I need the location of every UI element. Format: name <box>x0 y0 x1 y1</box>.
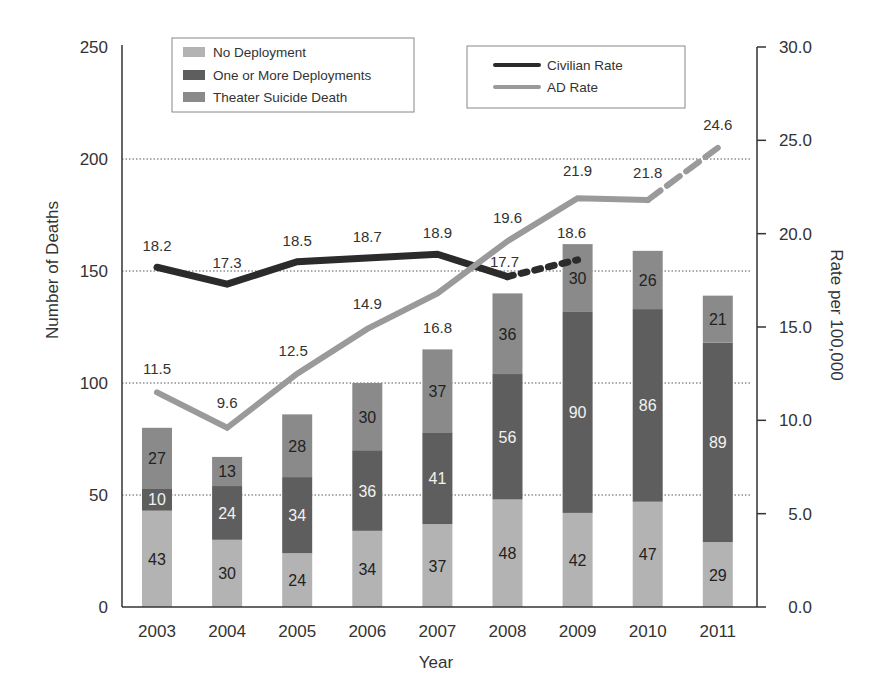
legend-lines: Civilian Rate AD Rate <box>467 46 685 108</box>
rate-label: 21.9 <box>563 162 592 179</box>
legend-swatch-theater <box>183 92 205 102</box>
x-tick-label: 2011 <box>700 622 737 641</box>
rate-label: 19.6 <box>493 209 522 226</box>
bar-value-label: 56 <box>499 429 517 446</box>
bar-value-label: 86 <box>639 397 657 414</box>
x-tick-label: 2004 <box>208 622 246 641</box>
rate-label: 18.7 <box>353 228 382 245</box>
y2-tick-label: 25.0 <box>779 131 812 150</box>
rate-label: 18.2 <box>142 237 171 254</box>
chart: 4310273024132434283436303741374856364290… <box>0 0 894 699</box>
bar-value-label: 47 <box>639 546 657 563</box>
legend-label: One or More Deployments <box>213 68 372 83</box>
rate-label: 16.8 <box>423 319 452 336</box>
y-tick-label: 50 <box>89 486 108 505</box>
rate-label: 9.6 <box>217 394 238 411</box>
bar-value-label: 30 <box>569 270 587 287</box>
rate-label: 18.9 <box>423 224 452 241</box>
bar-value-label: 24 <box>218 505 236 522</box>
legend-bars: No Deployment One or More Deployments Th… <box>172 38 414 112</box>
bar-value-label: 21 <box>709 311 727 328</box>
bar-value-label: 89 <box>709 434 727 451</box>
x-tick-label: 2003 <box>138 622 176 641</box>
x-axis-label: Year <box>419 653 454 672</box>
rate-label: 11.5 <box>143 360 171 377</box>
bar-value-label: 43 <box>148 551 166 568</box>
y2-tick-label: 5.0 <box>788 505 812 524</box>
bar-value-label: 41 <box>429 470 447 487</box>
rate-label: 12.5 <box>279 342 308 359</box>
rate-label: 17.3 <box>212 254 241 271</box>
y2-tick-label: 0.0 <box>788 598 812 617</box>
y2-tick-label: 30.0 <box>779 38 812 57</box>
bar-value-label: 28 <box>288 438 306 455</box>
rate-label: 17.7 <box>490 253 519 270</box>
bar-value-label: 37 <box>429 383 447 400</box>
bar-value-label: 24 <box>288 572 306 589</box>
legend-swatch-deployments <box>183 70 205 80</box>
bar-value-label: 36 <box>358 483 376 500</box>
legend-box <box>467 46 685 108</box>
bar-value-label: 48 <box>499 545 517 562</box>
bar-value-label: 10 <box>148 491 166 508</box>
bar-value-label: 26 <box>639 272 657 289</box>
bar-value-label: 42 <box>569 552 587 569</box>
y-tick-label: 100 <box>80 374 108 393</box>
x-tick-label: 2006 <box>348 622 386 641</box>
y2-tick-label: 10.0 <box>779 411 812 430</box>
bar-value-label: 90 <box>569 404 587 421</box>
legend-swatch-no-deployment <box>183 47 205 57</box>
legend-label: Theater Suicide Death <box>213 90 347 105</box>
rate-label: 21.8 <box>633 164 662 181</box>
y-tick-label: 250 <box>80 38 108 57</box>
x-tick-label: 2009 <box>559 622 597 641</box>
x-tick-label: 2008 <box>489 622 527 641</box>
bar-value-label: 37 <box>429 558 447 575</box>
legend-label: AD Rate <box>547 80 598 95</box>
x-tick-label: 2007 <box>418 622 456 641</box>
y2-tick-label: 20.0 <box>779 225 812 244</box>
bar-value-label: 34 <box>288 507 306 524</box>
y-tick-label: 150 <box>80 262 108 281</box>
legend-label: Civilian Rate <box>547 58 623 73</box>
x-tick-label: 2010 <box>629 622 667 641</box>
rate-label: 18.5 <box>283 232 312 249</box>
y2-tick-label: 15.0 <box>779 318 812 337</box>
rate-label: 24.6 <box>703 116 732 133</box>
rate-label: 18.6 <box>557 224 586 241</box>
bar-value-label: 27 <box>148 450 166 467</box>
x-tick-label: 2005 <box>278 622 316 641</box>
bar-value-label: 34 <box>358 561 376 578</box>
y-tick-label: 200 <box>80 150 108 169</box>
rate-label: 14.9 <box>353 295 382 312</box>
bar-value-label: 30 <box>218 565 236 582</box>
y2-axis-label: Rate per 100,000 <box>827 249 846 380</box>
bar-value-label: 29 <box>709 567 727 584</box>
bar-value-label: 36 <box>499 326 517 343</box>
y-tick-label: 0 <box>99 598 108 617</box>
bar-value-label: 13 <box>218 463 236 480</box>
bar-value-label: 30 <box>358 409 376 426</box>
y-axis-label: Number of Deaths <box>43 201 62 339</box>
legend-label: No Deployment <box>213 45 306 60</box>
